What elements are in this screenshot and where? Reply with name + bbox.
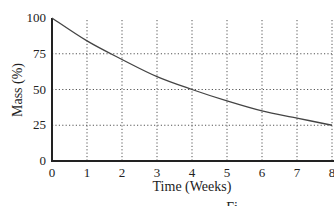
y-tick-25: 25 — [33, 117, 46, 132]
x-tick-0: 0 — [49, 165, 56, 180]
x-tick-6: 6 — [259, 165, 266, 180]
x-tick-1: 1 — [84, 165, 91, 180]
x-tick-4: 4 — [189, 165, 196, 180]
x-tick-7: 7 — [294, 165, 301, 180]
y-tick-labels: 0255075100 — [27, 10, 47, 168]
y-tick-0: 0 — [40, 153, 47, 168]
gridlines — [52, 20, 332, 161]
y-tick-100: 100 — [27, 10, 47, 25]
mass-decay-chart: 0255075100 012345678 Mass (%) Time (Week… — [0, 0, 334, 206]
x-tick-3: 3 — [154, 165, 161, 180]
x-tick-8: 8 — [329, 165, 334, 180]
x-axis-label: Time (Weeks) — [153, 179, 232, 195]
y-tick-50: 50 — [33, 82, 46, 97]
y-tick-75: 75 — [33, 46, 46, 61]
y-axis-label: Mass (%) — [10, 63, 26, 117]
figure-caption: Fi — [226, 200, 238, 206]
x-tick-labels: 012345678 — [49, 165, 334, 180]
x-tick-2: 2 — [119, 165, 126, 180]
x-tick-5: 5 — [224, 165, 231, 180]
